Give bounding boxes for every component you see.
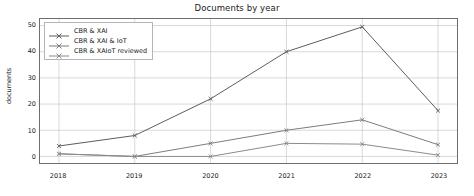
chart-title: Documents by year: [0, 3, 474, 13]
x-tick-label: 2023: [419, 172, 459, 180]
legend-item-1: CBR & XAI & IoT: [48, 36, 147, 46]
y-tick-label: 0: [6, 153, 36, 161]
legend-label: CBR & XAI & IoT: [74, 36, 127, 46]
x-tick-label: 2022: [343, 172, 383, 180]
y-tick-label: 40: [6, 47, 36, 55]
x-tick-label: 2021: [267, 172, 307, 180]
chart-figure: Documents by year documents 01020304050 …: [0, 0, 474, 196]
y-tick-label: 20: [6, 100, 36, 108]
legend-line-marker-icon: [48, 46, 70, 56]
x-axis-ticks: 201820192020202120222023: [39, 172, 458, 184]
legend-label: CBR & XAIoT reviewed: [74, 46, 147, 56]
legend-label: CBR & XAI: [74, 26, 108, 36]
y-tick-label: 50: [6, 21, 36, 29]
legend-item-2: CBR & XAIoT reviewed: [48, 46, 147, 56]
legend-item-0: CBR & XAI: [48, 26, 147, 36]
x-tick-label: 2018: [38, 172, 78, 180]
legend-line-marker-icon: [48, 26, 70, 36]
y-tick-label: 30: [6, 74, 36, 82]
x-tick-label: 2019: [114, 172, 154, 180]
legend-line-marker-icon: [48, 36, 70, 46]
chart-legend: CBR & XAICBR & XAI & IoTCBR & XAIoT revi…: [44, 22, 153, 60]
x-tick-label: 2020: [190, 172, 230, 180]
y-tick-label: 10: [6, 127, 36, 135]
series-line-2: [59, 143, 438, 156]
y-axis-ticks: 01020304050: [3, 18, 36, 164]
